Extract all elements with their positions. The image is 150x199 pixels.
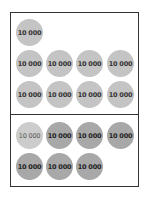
section-divider bbox=[10, 114, 138, 115]
coin-10000: 10 000 bbox=[16, 153, 43, 180]
coin-10000: 10 000 bbox=[46, 50, 73, 77]
coin-10000: 10 000 bbox=[16, 122, 43, 149]
coin-10000: 10 000 bbox=[46, 81, 73, 108]
coin-10000: 10 000 bbox=[46, 153, 73, 180]
coin-10000: 10 000 bbox=[46, 122, 73, 149]
coin-10000: 10 000 bbox=[76, 122, 103, 149]
coin-10000: 10 000 bbox=[107, 81, 134, 108]
coin-10000: 10 000 bbox=[16, 81, 43, 108]
coin-10000: 10 000 bbox=[76, 153, 103, 180]
coin-10000: 10 000 bbox=[107, 50, 134, 77]
coin-10000: 10 000 bbox=[76, 50, 103, 77]
coin-10000: 10 000 bbox=[107, 122, 134, 149]
coin-10000: 10 000 bbox=[76, 81, 103, 108]
coin-10000: 10 000 bbox=[16, 50, 43, 77]
coin-10000: 10 000 bbox=[16, 19, 43, 46]
